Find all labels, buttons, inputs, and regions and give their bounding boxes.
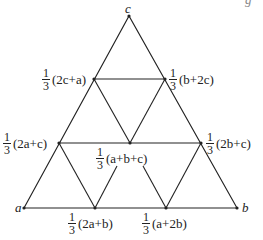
- point-b2c: [163, 77, 166, 80]
- corner-fragment-text: g: [245, 0, 252, 6]
- triangle-diagram: [0, 0, 263, 240]
- label-center: 13 (a+b+c): [96, 146, 147, 171]
- label-2ca: 13 (2c+a): [42, 67, 86, 92]
- point-2ca: [92, 77, 95, 80]
- label-2bc: 13 (2b+c): [206, 131, 251, 156]
- one-third-fraction: 13: [42, 67, 50, 92]
- outer-triangle: [24, 16, 237, 208]
- diagonal-b2c-to-center: [130, 79, 165, 143]
- diagonal-center-to-a2b: [143, 166, 166, 208]
- point-center: [128, 141, 131, 144]
- point-a2b: [164, 206, 167, 209]
- one-third-fraction: 13: [96, 146, 104, 171]
- point-2ab: [93, 206, 96, 209]
- point-2ac: [57, 141, 60, 144]
- line-2ac-to-2ab: [59, 143, 95, 208]
- diagonal-center-to-2ab: [95, 166, 117, 208]
- label-b2c: 13 (b+2c): [169, 67, 214, 92]
- label-a2b: 13 (a+2b): [142, 211, 187, 236]
- label-a: a: [15, 201, 22, 214]
- label-2ab: 13 (2a+b): [68, 211, 113, 236]
- point-b: [235, 206, 238, 209]
- diagonal-2ca-to-center: [94, 79, 130, 143]
- label-b: b: [242, 201, 249, 214]
- label-2ac: 13 (2a+c): [3, 131, 47, 156]
- one-third-fraction: 13: [68, 211, 76, 236]
- label-c: c: [125, 2, 131, 15]
- one-third-fraction: 13: [3, 131, 11, 156]
- point-a: [22, 206, 25, 209]
- line-2bc-to-a2b: [166, 143, 201, 208]
- one-third-fraction: 13: [142, 211, 150, 236]
- one-third-fraction: 13: [169, 67, 177, 92]
- point-2bc: [199, 141, 202, 144]
- one-third-fraction: 13: [206, 131, 214, 156]
